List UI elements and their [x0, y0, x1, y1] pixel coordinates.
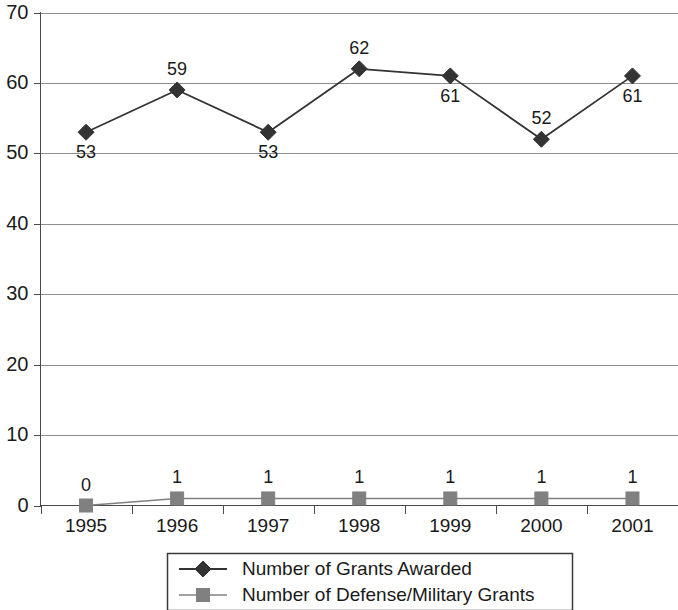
x-axis-tick-label: 2000 — [520, 515, 562, 536]
x-axis-tick-label: 1999 — [429, 515, 471, 536]
data-point-marker — [353, 492, 366, 505]
data-point-marker — [626, 492, 639, 505]
legend-entry-label[interactable]: Number of Grants Awarded — [242, 558, 472, 579]
y-axis-tick-label: 60 — [6, 71, 28, 93]
legend-marker-square — [197, 589, 210, 602]
data-point-label: 53 — [258, 142, 278, 162]
data-point-label: 1 — [263, 467, 273, 487]
y-axis-tick-label: 20 — [6, 353, 28, 375]
data-point-label: 1 — [627, 467, 637, 487]
x-axis-tick-label: 1997 — [247, 515, 289, 536]
x-axis-tick-label: 2001 — [611, 515, 653, 536]
data-point-marker — [80, 499, 93, 512]
line-chart: 010203040506070 199519961997199819992000… — [0, 0, 678, 610]
data-point-marker — [262, 492, 275, 505]
chart-legend: Number of Grants AwardedNumber of Defens… — [168, 554, 573, 610]
data-point-label: 52 — [531, 108, 551, 128]
y-axis-tick-label: 10 — [6, 423, 28, 445]
y-axis-tick-label: 30 — [6, 282, 28, 304]
data-point-label: 59 — [167, 59, 187, 79]
y-axis-tick-label: 40 — [6, 212, 28, 234]
data-point-label: 1 — [445, 467, 455, 487]
data-point-marker — [444, 492, 457, 505]
y-axis-tick-label: 70 — [6, 1, 28, 23]
data-point-marker — [171, 492, 184, 505]
x-axis-tick-label: 1996 — [156, 515, 198, 536]
data-point-label: 0 — [81, 475, 91, 495]
data-point-label: 1 — [354, 467, 364, 487]
data-point-label: 1 — [172, 467, 182, 487]
data-point-label: 1 — [536, 467, 546, 487]
data-point-label: 53 — [76, 142, 96, 162]
chart-container: 010203040506070 199519961997199819992000… — [0, 0, 678, 610]
data-point-marker — [535, 492, 548, 505]
data-point-label: 61 — [440, 86, 460, 106]
y-axis-tick-label: 0 — [17, 494, 28, 516]
x-axis-tick-label: 1995 — [65, 515, 107, 536]
data-point-label: 61 — [622, 86, 642, 106]
data-point-label: 62 — [349, 38, 369, 58]
y-axis-tick-label: 50 — [6, 141, 28, 163]
legend-entry-label[interactable]: Number of Defense/Military Grants — [242, 584, 535, 605]
x-axis-tick-label: 1998 — [338, 515, 380, 536]
